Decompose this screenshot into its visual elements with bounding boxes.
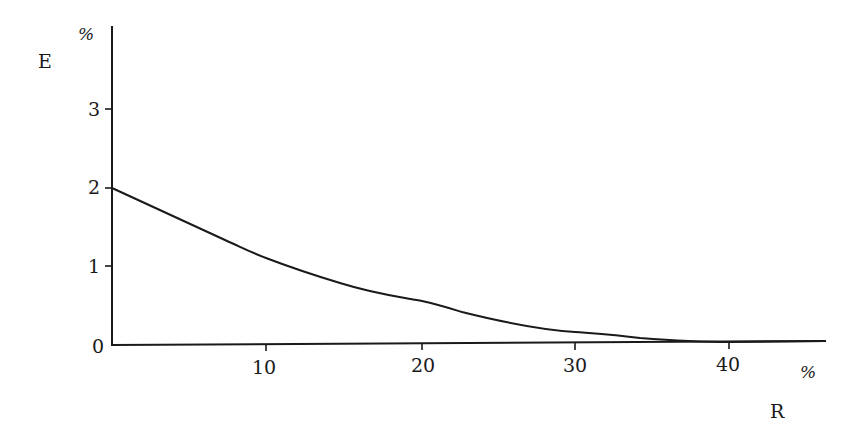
x-tick-label-10: 10 <box>252 358 276 377</box>
x-tick-label-30: 30 <box>563 356 587 375</box>
y-tick-label-1: 1 <box>88 257 100 276</box>
x-tick-label-40: 40 <box>716 355 740 374</box>
data-line <box>112 188 826 342</box>
x-unit-label: % <box>800 364 816 381</box>
x-tick-label-20: 20 <box>411 356 435 375</box>
y-axis-title: E <box>38 52 52 71</box>
y-unit-label: % <box>78 26 94 43</box>
y-tick-label-0: 0 <box>92 337 104 356</box>
y-tick-label-2: 2 <box>88 178 100 197</box>
y-tick-label-3: 3 <box>88 100 100 119</box>
y-ticks <box>105 109 112 266</box>
chart-canvas <box>0 0 857 444</box>
x-axis-title: R <box>770 402 784 421</box>
